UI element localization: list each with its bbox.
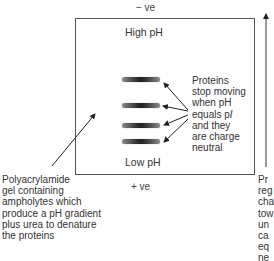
gel-pointer-arrow [52, 114, 95, 166]
band-pointer-arrows [163, 83, 188, 142]
arrow-to-band-3 [164, 115, 188, 125]
arrow-to-band-4 [164, 119, 188, 142]
arrow-to-band-1 [164, 83, 188, 110]
arrows-layer [0, 0, 274, 261]
arrow-to-band-2 [163, 106, 188, 111]
